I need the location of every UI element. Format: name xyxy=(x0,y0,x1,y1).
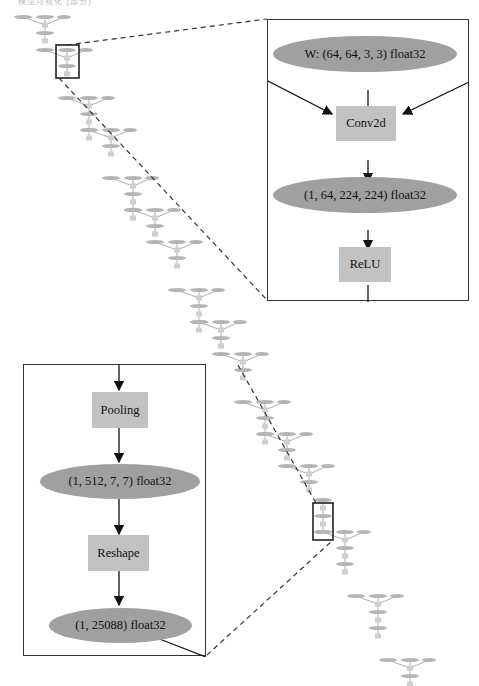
op-node xyxy=(240,376,246,381)
tensor-node xyxy=(347,594,365,598)
op-node xyxy=(375,634,381,639)
tensor-node xyxy=(336,530,354,534)
tensor-node xyxy=(314,530,332,534)
reshape-output-tensor-node: (1, 25088) float32 xyxy=(49,608,192,643)
tensor-node xyxy=(234,352,252,356)
op-node xyxy=(108,136,114,141)
tensor-node xyxy=(256,432,274,436)
tensor-node xyxy=(369,610,387,614)
zoom-connector-top-upper xyxy=(67,19,267,45)
tensor-node xyxy=(80,112,98,116)
tensor-node xyxy=(58,64,76,68)
tensor-node xyxy=(146,240,164,244)
op-node xyxy=(342,554,348,559)
tensor-node xyxy=(314,498,332,502)
tensor-node xyxy=(256,416,274,420)
tensor-node xyxy=(401,674,419,678)
op-node xyxy=(64,56,70,61)
tensor-node xyxy=(124,208,142,212)
op-node xyxy=(196,328,202,333)
tensor-node xyxy=(401,658,419,662)
tensor-node xyxy=(168,288,186,292)
op-node xyxy=(218,344,224,349)
op-node xyxy=(262,424,268,429)
tensor-node xyxy=(36,15,54,19)
tensor-node xyxy=(369,594,387,598)
tensor-node xyxy=(124,176,142,180)
tensor-node xyxy=(255,352,269,356)
inset-conv-block: W: (64, 64, 3, 3) float32 Conv2d (1, 64,… xyxy=(267,19,469,301)
zoom-connector-top-lower xyxy=(59,78,267,300)
op-node xyxy=(42,23,48,28)
tensor-node xyxy=(79,48,93,52)
tensor-node xyxy=(211,288,225,292)
tensor-node xyxy=(234,400,252,404)
op-node xyxy=(375,602,381,607)
op-node xyxy=(320,522,326,527)
tensor-node xyxy=(422,658,436,662)
tensor-node xyxy=(256,400,274,404)
reshape-op-node: Reshape xyxy=(88,535,149,571)
tensor-node xyxy=(123,128,137,132)
pool-output-tensor-node: (1, 512, 7, 7) float32 xyxy=(40,464,200,499)
tensor-node xyxy=(300,464,318,468)
op-node xyxy=(86,120,92,125)
tensor-node xyxy=(321,464,335,468)
tensor-node xyxy=(57,15,71,19)
op-node xyxy=(284,440,290,445)
tensor-node xyxy=(168,256,186,260)
pooling-op-node: Pooling xyxy=(92,392,148,428)
tensor-node xyxy=(36,31,54,35)
op-node xyxy=(342,538,348,543)
tensor-node xyxy=(336,546,354,550)
tensor-node xyxy=(299,432,313,436)
op-node xyxy=(240,360,246,365)
op-node xyxy=(196,296,202,301)
tensor-node xyxy=(189,240,203,244)
tensor-node xyxy=(212,320,230,324)
tensor-node xyxy=(300,480,318,484)
op-node xyxy=(152,216,158,221)
tensor-node xyxy=(277,400,291,404)
tensor-node xyxy=(58,48,76,52)
op-node xyxy=(262,440,268,445)
op-node xyxy=(152,232,158,237)
op-node xyxy=(284,456,290,461)
op-node xyxy=(174,248,180,253)
op-node xyxy=(108,152,114,157)
tensor-node xyxy=(233,320,247,324)
tensor-node xyxy=(278,432,296,436)
op-node xyxy=(407,666,413,671)
op-node xyxy=(86,136,92,141)
op-node xyxy=(196,312,202,317)
op-node xyxy=(174,264,180,269)
op-node xyxy=(130,216,136,221)
tensor-node xyxy=(357,530,371,534)
op-node xyxy=(306,472,312,477)
tensor-node xyxy=(167,208,181,212)
tensor-node xyxy=(124,192,142,196)
tensor-node xyxy=(36,48,54,52)
tensor-node xyxy=(314,514,332,518)
op-node xyxy=(64,72,70,77)
inset-pool-reshape-block: Pooling (1, 512, 7, 7) float32 Reshape (… xyxy=(23,364,206,656)
weight-tensor-node: W: (64, 64, 3, 3) float32 xyxy=(273,36,457,72)
op-node xyxy=(342,570,348,575)
tensor-node xyxy=(278,464,296,468)
op-node xyxy=(375,618,381,623)
tensor-node xyxy=(379,658,397,662)
zoom-connector-bottom-lower xyxy=(207,540,333,655)
tensor-node xyxy=(190,304,208,308)
op-node xyxy=(130,184,136,189)
op-node xyxy=(407,682,413,686)
tensor-node xyxy=(390,594,404,598)
conv-output-tensor-node: (1, 64, 224, 224) float32 xyxy=(273,177,457,213)
tensor-node xyxy=(369,626,387,630)
tensor-node xyxy=(336,562,354,566)
tensor-node xyxy=(58,96,76,100)
relu-op-node: ReLU xyxy=(339,247,391,282)
tensor-node xyxy=(190,288,208,292)
tensor-node xyxy=(102,128,120,132)
tensor-node xyxy=(212,352,230,356)
op-node xyxy=(320,506,326,511)
